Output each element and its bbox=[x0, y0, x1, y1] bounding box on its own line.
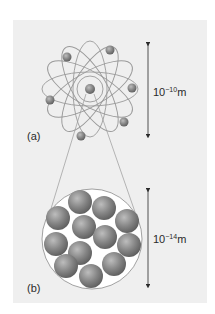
nucleon bbox=[117, 233, 141, 257]
scale-exponent: −10 bbox=[165, 86, 177, 93]
electron bbox=[77, 132, 86, 141]
nucleon bbox=[92, 196, 116, 220]
scale-exponent: −14 bbox=[165, 233, 177, 240]
nucleon bbox=[68, 190, 92, 214]
scale-unit: m bbox=[177, 233, 186, 245]
electron bbox=[128, 84, 137, 93]
nucleon bbox=[102, 252, 126, 276]
atom-scale-figure: (a) (b) 10−10m 10−14m bbox=[0, 0, 215, 314]
electron bbox=[106, 46, 115, 55]
scale-base: 10 bbox=[153, 86, 165, 98]
scale-label-nucleus: 10−14m bbox=[153, 233, 186, 245]
nucleus-diagram bbox=[42, 189, 142, 289]
atomic-nucleus bbox=[85, 84, 95, 94]
nucleon bbox=[79, 264, 103, 288]
scale-label-atom: 10−10m bbox=[153, 86, 186, 98]
scale-unit: m bbox=[177, 86, 186, 98]
nucleon bbox=[93, 225, 117, 249]
panel-label-a: (a) bbox=[27, 131, 40, 142]
diagram-canvas bbox=[0, 0, 215, 314]
scale-base: 10 bbox=[153, 233, 165, 245]
nucleon bbox=[46, 206, 70, 230]
nucleon bbox=[72, 215, 96, 239]
electron bbox=[120, 118, 129, 127]
nucleon bbox=[44, 232, 68, 256]
electron bbox=[46, 96, 55, 105]
nucleon bbox=[115, 209, 139, 233]
nucleon bbox=[54, 254, 78, 278]
panel-label-b: (b) bbox=[27, 283, 40, 294]
electron bbox=[63, 53, 72, 62]
